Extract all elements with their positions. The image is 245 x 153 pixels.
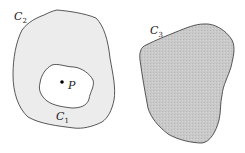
curves-diagram: P C1 C2 C3 xyxy=(0,0,245,153)
point-p-label: P xyxy=(67,79,76,92)
region-c3 xyxy=(140,24,234,143)
point-p xyxy=(60,80,64,84)
label-c3: C3 xyxy=(150,24,163,39)
label-c2: C2 xyxy=(14,10,27,25)
